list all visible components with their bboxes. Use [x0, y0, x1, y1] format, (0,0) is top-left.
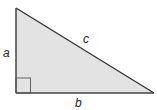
label-c: c — [83, 32, 89, 46]
label-a: a — [3, 46, 10, 60]
right-triangle-diagram: a b c — [0, 0, 157, 110]
label-b: b — [75, 96, 82, 110]
